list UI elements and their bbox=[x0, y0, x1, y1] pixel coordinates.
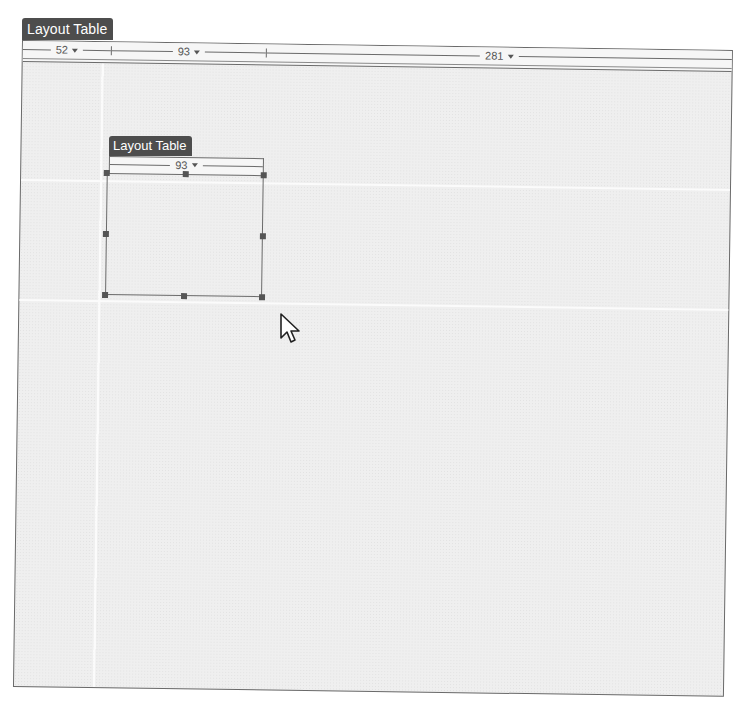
grid-line bbox=[93, 64, 104, 687]
dropdown-arrow-icon[interactable] bbox=[194, 50, 200, 54]
column-width-label: 93 bbox=[178, 43, 190, 60]
outer-column-header: 52 93 281 bbox=[23, 41, 732, 72]
resize-handle-bottom-center[interactable] bbox=[181, 293, 187, 299]
column-width-menu-1[interactable]: 52 bbox=[23, 41, 111, 59]
resize-handle-top-left[interactable] bbox=[104, 170, 110, 176]
arrow-pointer-icon bbox=[279, 312, 301, 346]
inner-table-body[interactable] bbox=[105, 173, 264, 297]
inner-layout-table-tab[interactable]: Layout Table bbox=[109, 136, 192, 156]
column-width-menu-2[interactable]: 93 bbox=[112, 42, 266, 61]
column-width-label: 93 bbox=[175, 158, 187, 172]
resize-handle-middle-left[interactable] bbox=[103, 231, 109, 237]
column-width-menu-3[interactable]: 281 bbox=[267, 44, 732, 67]
resize-handle-bottom-right[interactable] bbox=[259, 294, 265, 300]
inner-layout-table[interactable]: 93 bbox=[105, 156, 264, 299]
resize-handle-bottom-left[interactable] bbox=[102, 292, 108, 298]
resize-handle-middle-right[interactable] bbox=[260, 233, 266, 239]
column-width-label: 281 bbox=[485, 47, 504, 64]
resize-handle-top-center[interactable] bbox=[183, 171, 189, 177]
resize-handle-top-right[interactable] bbox=[261, 172, 267, 178]
dropdown-arrow-icon[interactable] bbox=[191, 163, 197, 167]
column-width-label: 52 bbox=[56, 41, 68, 58]
outer-layout-table-tab[interactable]: Layout Table bbox=[22, 18, 113, 40]
design-canvas[interactable]: Layout Table 52 93 bbox=[0, 0, 751, 709]
dropdown-arrow-icon[interactable] bbox=[507, 54, 513, 58]
dropdown-arrow-icon[interactable] bbox=[72, 48, 78, 52]
grid-line bbox=[19, 299, 728, 311]
